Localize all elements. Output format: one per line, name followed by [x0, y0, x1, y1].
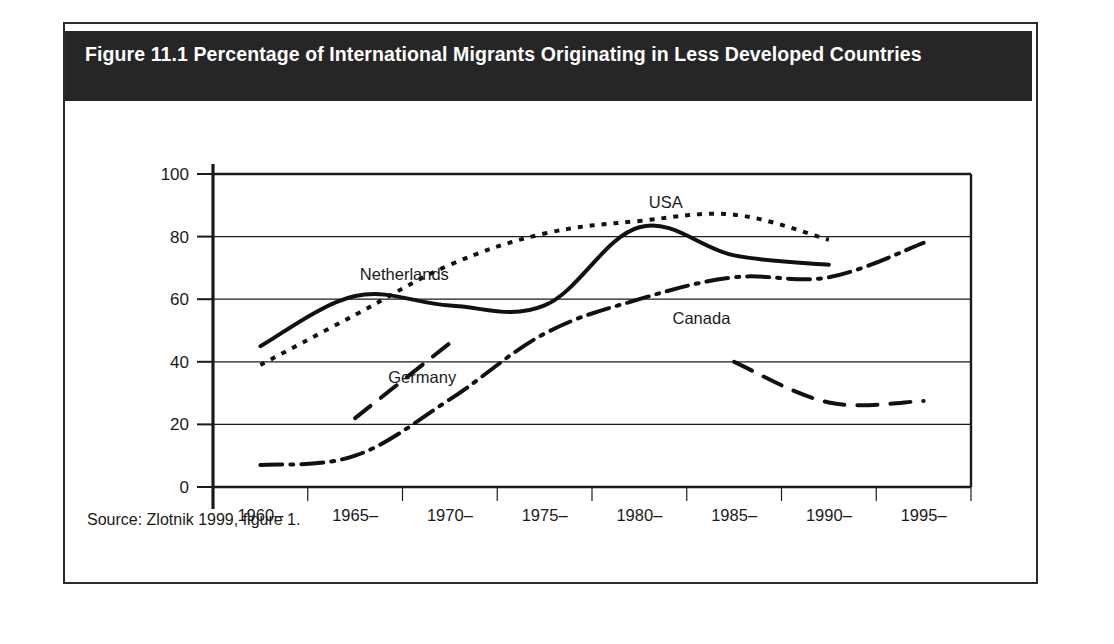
chart-y-axis-labels: 020406080100 — [161, 165, 189, 497]
y-tick-label: 0 — [180, 478, 189, 497]
x-tick-label: 1965– — [332, 506, 379, 524]
page-title: Figure 11.1 Percentage of International … — [85, 42, 965, 66]
x-tick-label: 1980– — [616, 506, 663, 524]
series-line-germany — [734, 362, 924, 406]
x-tick-label: 1975– — [522, 506, 569, 524]
x-tick-label: 1995– — [901, 506, 948, 524]
y-tick-label: 40 — [170, 353, 189, 372]
chart-y-axis-ticks — [197, 174, 213, 487]
figure-title-banner: Figure 11.1 Percentage of International … — [65, 31, 1032, 101]
chart-plot-border — [213, 164, 971, 509]
y-tick-label: 60 — [170, 290, 189, 309]
series-label-canada: Canada — [673, 309, 732, 327]
series-label-germany: Germany — [388, 368, 457, 386]
chart-series-lines — [260, 214, 923, 465]
y-tick-label: 20 — [170, 415, 189, 434]
source-note: Source: Zlotnik 1999, figure 1. — [87, 511, 300, 529]
migrants-line-chart: 020406080100 1960–19641965–19691970–1974… — [65, 104, 1036, 524]
x-tick-label: 1985– — [711, 506, 758, 524]
series-label-usa: USA — [649, 193, 683, 211]
figure-frame: Figure 11.1 Percentage of International … — [63, 22, 1038, 584]
x-tick-label: 1990– — [806, 506, 853, 524]
series-line-netherlands — [260, 226, 829, 347]
y-tick-label: 80 — [170, 228, 189, 247]
x-tick-label: 1970– — [427, 506, 474, 524]
series-label-netherlands: Netherlands — [360, 265, 449, 283]
y-tick-label: 100 — [161, 165, 189, 184]
chart-x-axis-labels: 1960–19641965–19691970–19741975–19791980… — [237, 506, 947, 524]
chart-category-separators — [213, 487, 971, 501]
